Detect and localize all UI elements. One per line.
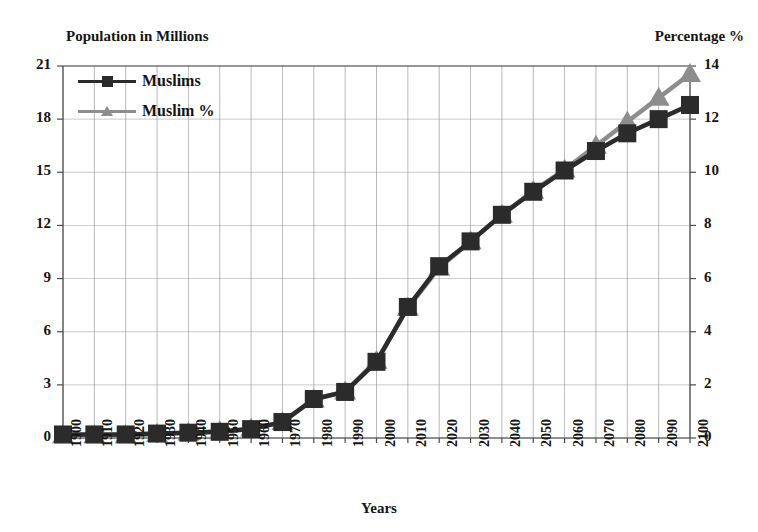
square-marker-icon <box>493 206 511 224</box>
y-axis-right-tick-label: 12 <box>704 109 744 126</box>
square-marker-icon <box>368 353 386 371</box>
x-axis-tick-label: 2010 <box>414 419 430 447</box>
x-axis-tick-label: 2030 <box>477 419 493 447</box>
legend-swatch-triangle <box>78 104 136 118</box>
x-axis-tick-label: 1970 <box>288 419 304 447</box>
data-point-muslims <box>618 124 636 142</box>
square-marker-icon <box>336 383 354 401</box>
data-point-muslims <box>524 183 542 201</box>
y-axis-left-tick-label: 9 <box>11 269 51 286</box>
data-point-muslims <box>493 206 511 224</box>
triangle-marker-icon <box>101 106 113 116</box>
data-point-muslims <box>462 232 480 250</box>
square-marker-icon <box>305 390 323 408</box>
square-marker-icon <box>430 257 448 275</box>
x-axis-tick-label: 1980 <box>320 419 336 447</box>
chart-canvas: Population in Millions Percentage % Year… <box>0 0 758 532</box>
square-marker-icon <box>618 124 636 142</box>
left-axis-title: Population in Millions <box>66 28 209 45</box>
data-point-muslims <box>430 257 448 275</box>
x-axis-tick-label: 1930 <box>163 419 179 447</box>
x-axis-tick-label: 2060 <box>571 419 587 447</box>
y-axis-left-tick-label: 21 <box>11 56 51 73</box>
legend-item-muslim-percent: Muslim % <box>78 102 228 120</box>
square-marker-icon <box>681 96 699 114</box>
y-axis-right-tick-label: 2 <box>704 375 744 392</box>
y-axis-right-tick-label: 14 <box>704 56 744 73</box>
legend-item-muslims: Muslims <box>78 72 228 90</box>
x-axis-tick-label: 2040 <box>508 419 524 447</box>
data-point-muslims <box>368 353 386 371</box>
square-marker-icon <box>650 110 668 128</box>
y-axis-right-tick-label: 8 <box>704 215 744 232</box>
y-axis-right-tick-label: 6 <box>704 269 744 286</box>
y-axis-left-tick-label: 18 <box>11 109 51 126</box>
y-axis-left-tick-label: 3 <box>11 375 51 392</box>
x-axis-tick-label: 1940 <box>194 419 210 447</box>
legend-label-muslims: Muslims <box>142 72 201 90</box>
x-axis-tick-label: 2090 <box>665 419 681 447</box>
x-axis-tick-label: 1920 <box>132 419 148 447</box>
square-marker-icon <box>102 76 113 87</box>
data-point-muslims <box>556 162 574 180</box>
x-axis-tick-label: 2080 <box>633 419 649 447</box>
x-axis-tick-label: 2000 <box>383 419 399 447</box>
x-axis-tick-label: 2020 <box>445 419 461 447</box>
y-axis-right-tick-label: 10 <box>704 162 744 179</box>
x-axis-tick-label: 2050 <box>539 419 555 447</box>
square-marker-icon <box>462 232 480 250</box>
x-axis-tick-label: 1990 <box>351 419 367 447</box>
y-axis-left-tick-label: 6 <box>11 322 51 339</box>
data-point-muslims <box>399 298 417 316</box>
y-axis-left-tick-label: 15 <box>11 162 51 179</box>
x-axis-tick-label: 1960 <box>257 419 273 447</box>
x-axis-tick-label: 2070 <box>602 419 618 447</box>
data-point-muslims <box>587 142 605 160</box>
data-point-muslims <box>681 96 699 114</box>
data-point-muslims <box>305 390 323 408</box>
legend-swatch-square <box>78 74 136 88</box>
x-axis-tick-label: 1900 <box>69 419 85 447</box>
square-marker-icon <box>587 142 605 160</box>
right-axis-title: Percentage % <box>655 28 744 45</box>
x-axis-title: Years <box>0 500 758 517</box>
square-marker-icon <box>556 162 574 180</box>
data-point-muslims <box>336 383 354 401</box>
chart-legend: Muslims Muslim % <box>78 72 228 120</box>
square-marker-icon <box>399 298 417 316</box>
x-axis-tick-label: 1910 <box>100 419 116 447</box>
x-axis-tick-label: 2100 <box>696 419 712 447</box>
y-axis-left-tick-label: 0 <box>11 428 51 445</box>
square-marker-icon <box>524 183 542 201</box>
legend-label-muslim-percent: Muslim % <box>142 102 214 120</box>
x-axis-tick-label: 1950 <box>226 419 242 447</box>
y-axis-right-tick-label: 4 <box>704 322 744 339</box>
y-axis-left-tick-label: 12 <box>11 215 51 232</box>
data-point-muslims <box>650 110 668 128</box>
